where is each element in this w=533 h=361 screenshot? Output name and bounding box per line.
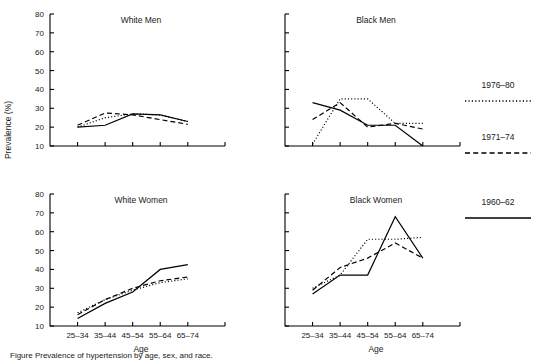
- x-tick-label: 25–34: [301, 331, 324, 340]
- series-line-solid: [78, 265, 188, 319]
- legend-label-solid: 1960–62: [481, 197, 514, 207]
- y-tick-label: 60: [35, 228, 44, 237]
- y-tick-label: 70: [35, 209, 44, 218]
- x-tick-label: 35–44: [329, 331, 352, 340]
- x-tick-label: 45–54: [122, 331, 145, 340]
- y-tick-label: 60: [35, 48, 44, 57]
- x-tick-label: 55–64: [149, 331, 172, 340]
- y-tick-label: 70: [35, 29, 44, 38]
- panel-axes-white-women: [50, 194, 225, 326]
- y-tick-label: 20: [35, 303, 44, 312]
- legend-label-dotted: 1976–80: [481, 80, 514, 90]
- panel-white-men: 1020304050607080White Men: [35, 10, 225, 151]
- panel-white-women: 102030405060708025–3435–4445–5455–6465–7…: [35, 190, 225, 354]
- y-tick-label: 80: [35, 10, 44, 19]
- figure-caption: Figure Prevalence of hypertension by age…: [10, 351, 213, 360]
- x-tick-label: 65–74: [177, 331, 200, 340]
- multi-panel-line-chart: 1020304050607080White MenBlack Men102030…: [0, 0, 533, 361]
- panel-black-women: 25–3435–4445–5455–6465–74Black WomenAge: [285, 194, 460, 354]
- panel-title-white-men: White Men: [121, 15, 162, 25]
- panel-title-black-women: Black Women: [350, 195, 403, 205]
- y-tick-label: 50: [35, 247, 44, 256]
- x-tick-label: 35–44: [94, 331, 117, 340]
- y-tick-label: 30: [35, 104, 44, 113]
- y-tick-label: 10: [35, 142, 44, 151]
- x-tick-label: 45–54: [357, 331, 380, 340]
- panel-black-men: Black Men: [285, 14, 460, 146]
- series-line-solid: [78, 114, 188, 127]
- series-line-dashed: [78, 113, 188, 125]
- y-tick-label: 80: [35, 190, 44, 199]
- y-axis-title: Prevalence (%): [3, 101, 13, 159]
- y-tick-label: 10: [35, 322, 44, 331]
- x-tick-label: 65–74: [412, 331, 435, 340]
- panel-title-white-women: White Women: [114, 195, 167, 205]
- legend-label-dashed: 1971–74: [481, 132, 514, 142]
- series-line-dotted: [313, 237, 423, 288]
- panel-axes-white-men: [50, 14, 225, 146]
- legend: 1976–801971–741960–62: [465, 80, 531, 218]
- y-tick-label: 30: [35, 284, 44, 293]
- y-tick-label: 50: [35, 67, 44, 76]
- panel-title-black-men: Black Men: [356, 15, 396, 25]
- y-tick-label: 40: [35, 85, 44, 94]
- x-tick-label: 25–34: [66, 331, 89, 340]
- series-line-dotted: [313, 99, 423, 144]
- x-tick-label: 55–64: [384, 331, 407, 340]
- x-axis-title-black-women: Age: [368, 344, 383, 354]
- y-tick-label: 20: [35, 123, 44, 132]
- series-line-dotted: [78, 114, 188, 127]
- y-tick-label: 40: [35, 265, 44, 274]
- figure-container: 1020304050607080White MenBlack Men102030…: [0, 0, 533, 361]
- series-line-solid: [313, 217, 423, 294]
- panel-axes-black-women: [285, 194, 460, 326]
- series-line-dotted: [78, 279, 188, 313]
